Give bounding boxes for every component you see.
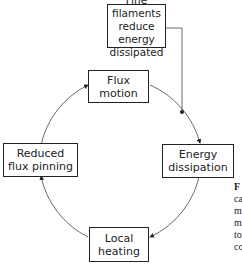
node-reduced-flux-pinning: Reduced flux pinning <box>3 143 78 177</box>
node-fine-filaments: Fine filaments reduce energy dissipated <box>107 4 166 48</box>
arrow-pinning-to-flux <box>41 85 88 145</box>
caption-line: m <box>234 205 242 216</box>
node-energy-dissipation: Energy dissipation <box>162 144 234 178</box>
arrow-heating-to-pinning <box>41 176 88 237</box>
caption-line: m <box>234 217 242 228</box>
node-flux-motion: Flux motion <box>88 70 149 103</box>
caption-line: ca <box>234 193 242 204</box>
figure-caption: F ca m m to co <box>234 181 242 253</box>
caption-label: F <box>234 181 240 192</box>
caption-line: co <box>234 241 242 252</box>
junction-dot <box>180 110 184 114</box>
caption-line: to <box>234 229 242 240</box>
arrow-energy-to-heating <box>150 172 200 237</box>
arrow-flux-to-energy <box>150 85 200 143</box>
node-local-heating: Local heating <box>89 227 149 262</box>
